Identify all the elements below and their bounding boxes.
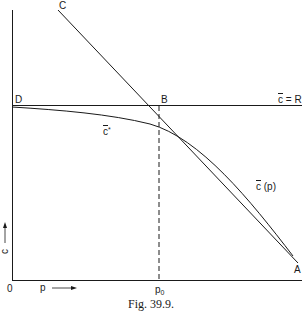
diagram-canvas [0,0,306,313]
x-tick-p0: p0 [155,285,164,296]
label-c-of-p: c (p) [256,182,276,192]
y-axis-label: c [0,249,10,254]
label-c-star-sup: * [108,126,111,133]
point-label-d: D [15,95,22,105]
point-label-c: C [59,1,66,11]
label-c-star: c* [103,126,111,137]
point-label-b: B [161,95,168,105]
figure-caption: Fig. 39.9. [128,297,174,312]
curve-c-star [12,107,293,256]
x-tick-p0-sub: 0 [161,289,165,296]
label-c-equals-r-rest: = R [283,94,302,105]
x-axis-arrow-head [71,286,77,290]
origin-label: 0 [7,284,13,294]
label-c-of-p-rest: (p) [261,181,276,192]
y-axis-arrow-head [3,222,7,228]
y-axis-label-text: c [0,249,10,254]
point-label-a: A [294,265,301,275]
label-c-equals-r: c = R [278,95,302,105]
x-axis-label: p [40,283,46,293]
